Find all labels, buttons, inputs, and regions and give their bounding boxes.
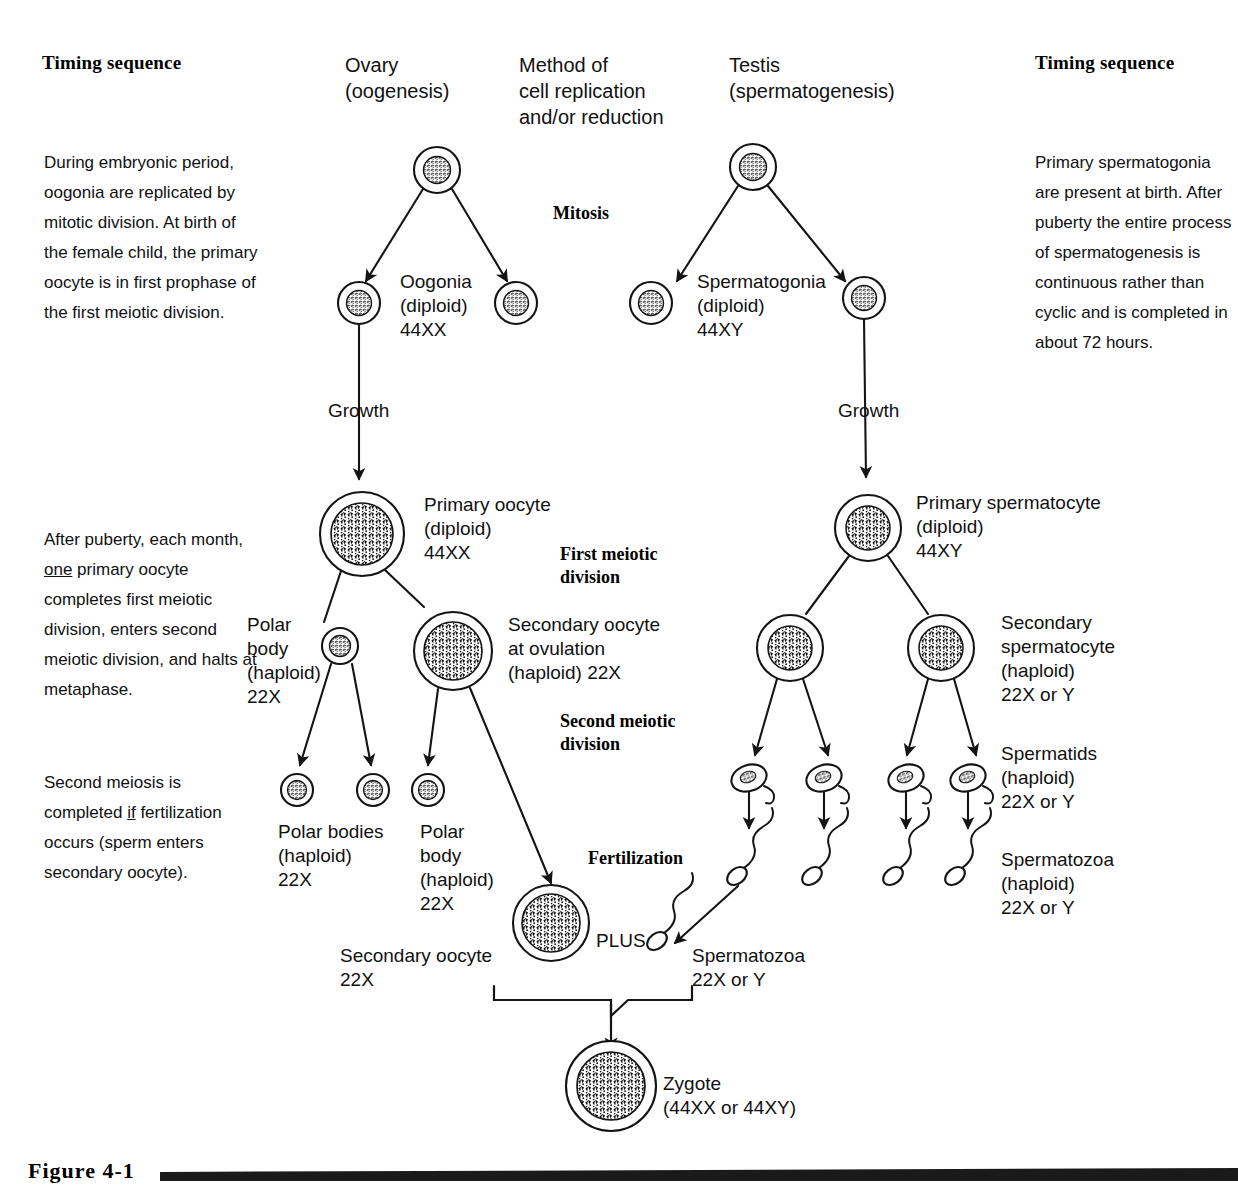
left-paragraph-2: After puberty, each month, one primary o… bbox=[44, 525, 264, 705]
figure-page: Timing sequence Timing sequence Ovary (o… bbox=[0, 0, 1238, 1198]
method-header: Method of cell replication and/or reduct… bbox=[519, 52, 664, 130]
growth-label-left: Growth bbox=[328, 399, 389, 423]
timing-sequence-header-left: Timing sequence bbox=[42, 52, 181, 74]
testis-header: Testis (spermatogenesis) bbox=[729, 52, 895, 104]
secondary-oocyte-label: Secondary oocyte 22X bbox=[340, 944, 492, 992]
left-paragraph-2-emphasis: one bbox=[44, 560, 72, 579]
polar-body-label: Polar body (haploid) 22X bbox=[247, 613, 321, 709]
spermatozoa-fertilization-label: Spermatozoa 22X or Y bbox=[692, 944, 805, 992]
secondary-spermatocyte-label: Secondary spermatocyte (haploid) 22X or … bbox=[1001, 611, 1115, 707]
spermatids-label: Spermatids (haploid) 22X or Y bbox=[1001, 742, 1097, 814]
spermatozoa-label: Spermatozoa (haploid) 22X or Y bbox=[1001, 848, 1114, 920]
figure-caption: Figure 4-1 bbox=[28, 1158, 135, 1184]
timing-sequence-header-right: Timing sequence bbox=[1035, 52, 1174, 74]
plus-label: PLUS bbox=[596, 929, 646, 953]
fertilization-label: Fertilization bbox=[588, 847, 683, 870]
zygote-label: Zygote (44XX or 44XY) bbox=[663, 1072, 796, 1120]
oogonia-label: Oogonia (diploid) 44XX bbox=[400, 270, 472, 342]
left-paragraph-3: Second meiosis is completed if fertiliza… bbox=[44, 768, 249, 888]
growth-label-right: Growth bbox=[838, 399, 899, 423]
left-paragraph-3-emphasis: if bbox=[127, 803, 136, 822]
polar-body-2-label: Polar body (haploid) 22X bbox=[420, 820, 494, 916]
primary-spermatocyte-label: Primary spermatocyte (diploid) 44XY bbox=[916, 491, 1101, 563]
mitosis-label: Mitosis bbox=[553, 202, 609, 225]
first-meiotic-division-label: First meiotic division bbox=[560, 543, 657, 589]
right-paragraph-1: Primary spermatogonia are present at bir… bbox=[1035, 148, 1238, 358]
spermatogonia-label: Spermatogonia (diploid) 44XY bbox=[697, 270, 826, 342]
left-paragraph-2-b: primary oocyte completes first meiotic d… bbox=[44, 560, 257, 699]
polar-bodies-label: Polar bodies (haploid) 22X bbox=[278, 820, 384, 892]
left-paragraph-2-a: After puberty, each month, bbox=[44, 530, 243, 549]
secondary-oocyte-ovulation-label: Secondary oocyte at ovulation (haploid) … bbox=[508, 613, 660, 685]
left-paragraph-1: During embryonic period, oogonia are rep… bbox=[44, 148, 259, 328]
primary-oocyte-label: Primary oocyte (diploid) 44XX bbox=[424, 493, 551, 565]
ovary-header: Ovary (oogenesis) bbox=[345, 52, 450, 104]
second-meiotic-division-label: Second meiotic division bbox=[560, 710, 675, 756]
